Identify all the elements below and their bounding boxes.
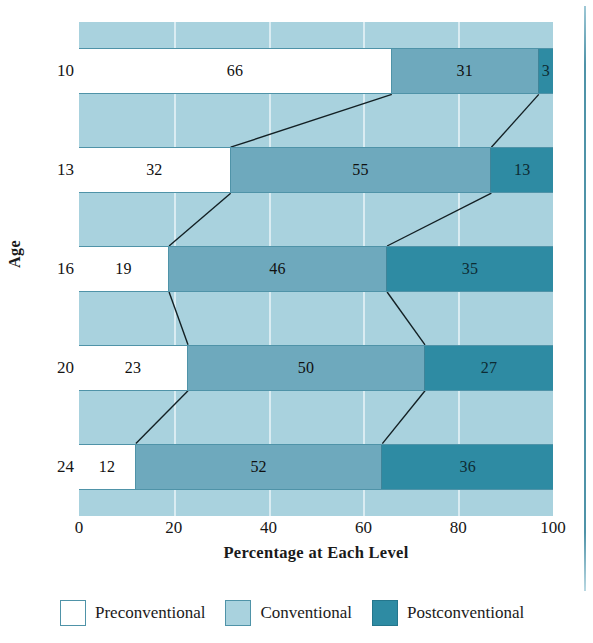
connector-con-post-2 [387,292,425,345]
segment-value-label: 55 [352,162,368,178]
segment-value-label: 46 [269,261,285,277]
chart-figure: 66313325513194635235027125236 Age 101316… [0,0,593,643]
segment-conventional: 50 [188,346,425,390]
segment-value-label: 23 [125,360,141,376]
segment-conventional: 55 [231,148,492,192]
x-axis-tick-100: 100 [540,518,566,538]
segment-value-label: 19 [115,261,131,277]
segment-preconventional: 23 [79,346,188,390]
segment-value-label: 12 [99,459,115,475]
teal-square-icon [372,600,398,626]
x-axis-tick-20: 20 [165,518,182,538]
x-axis-tick-0: 0 [75,518,84,538]
legend-item-preconventional: Preconventional [60,600,205,626]
y-axis-label-20: 20 [44,358,74,378]
white-square-icon [60,600,86,626]
x-axis-tick-40: 40 [260,518,277,538]
x-axis-tick-labels: 020406080100 [79,518,553,542]
segment-postconventional: 3 [539,49,553,93]
legend-label: Preconventional [95,603,205,623]
y-axis-label-13: 13 [44,160,74,180]
segment-value-label: 35 [462,261,478,277]
segment-value-label: 52 [250,459,266,475]
bar-row: 325513 [79,147,553,193]
segment-value-label: 32 [146,162,162,178]
x-axis-title: Percentage at Each Level [79,543,553,563]
segment-postconventional: 13 [491,148,553,192]
segment-conventional: 46 [169,247,387,291]
connector-con-post-0 [491,94,538,147]
legend-item-conventional: Conventional [225,600,352,626]
light-blue-square-icon [225,600,251,626]
bar-row: 194635 [79,246,553,292]
connector-con-post-1 [387,193,491,246]
x-axis-tick-80: 80 [450,518,467,538]
segment-value-label: 27 [481,360,497,376]
y-axis-label-16: 16 [44,259,74,279]
segment-preconventional: 32 [79,148,231,192]
connector-con-post-3 [382,391,425,444]
bar-row: 235027 [79,345,553,391]
connector-pre-con-3 [136,391,188,444]
segment-preconventional: 19 [79,247,169,291]
chart-legend: PreconventionalConventionalPostconventio… [60,600,544,626]
segment-value-label: 31 [457,63,473,79]
page-edge-rule [584,6,586,591]
legend-label: Conventional [260,603,352,623]
connector-pre-con-2 [169,292,188,345]
segment-value-label: 66 [227,63,243,79]
segment-value-label: 36 [459,459,475,475]
legend-label: Postconventional [407,603,524,623]
segment-value-label: 50 [298,360,314,376]
segment-conventional: 31 [392,49,539,93]
segment-postconventional: 36 [382,445,553,489]
segment-postconventional: 27 [425,346,553,390]
y-axis-label-24: 24 [44,457,74,477]
y-axis-label-10: 10 [44,61,74,81]
segment-conventional: 52 [136,445,382,489]
plot-area: 66313325513194635235027125236 [79,22,553,516]
segment-preconventional: 66 [79,49,392,93]
bar-row: 125236 [79,444,553,490]
segment-postconventional: 35 [387,247,553,291]
segment-value-label: 13 [514,162,530,178]
legend-item-postconventional: Postconventional [372,600,524,626]
segment-value-label: 3 [542,63,550,79]
y-axis-title: Age [6,240,24,268]
bar-row: 66313 [79,48,553,94]
connector-pre-con-1 [169,193,231,246]
x-axis-tick-60: 60 [355,518,372,538]
segment-preconventional: 12 [79,445,136,489]
connector-pre-con-0 [231,94,392,147]
